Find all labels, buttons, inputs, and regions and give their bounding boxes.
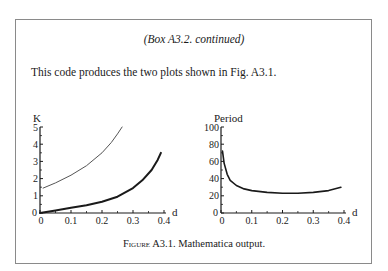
- figure-caption-text: Mathematica output.: [178, 238, 265, 249]
- chart2-x-tick-label: 0: [220, 215, 225, 226]
- chart1-x-tick-label: 0.3: [127, 215, 140, 226]
- chart1-y-axis-label: K: [33, 112, 41, 124]
- chart2-y-axis-label: Period: [214, 112, 243, 124]
- chart1-x-tick-label: 0: [39, 215, 44, 226]
- chart1-x-tick-label: 0.1: [65, 215, 78, 226]
- chart1-x-tick-label: 0.2: [96, 215, 109, 226]
- chart2-y-origin-label: 0: [213, 207, 218, 218]
- chart2-x-axis-label: d: [352, 206, 358, 218]
- chart2-y-tick-label: 60: [209, 156, 219, 167]
- charts-canvas: 12345000.10.20.30.4dK20406080100000.10.2…: [0, 0, 388, 271]
- chart2-y-tick-label: 80: [209, 139, 219, 150]
- figure-caption-label: Figure A3.1.: [123, 238, 176, 249]
- chart1-x-tick-label: 0.4: [158, 215, 171, 226]
- chart1-series-line-1: [43, 127, 122, 188]
- chart2-y-tick-label: 20: [209, 190, 219, 201]
- chart1-series-line-2: [40, 153, 161, 213]
- chart2-x-tick-label: 0.2: [276, 215, 289, 226]
- chart1-y-tick-label: 3: [33, 156, 38, 167]
- chart1-y-tick-label: 1: [33, 190, 38, 201]
- chart1-x-axis-label: d: [172, 206, 178, 218]
- chart1-y-tick-label: 2: [33, 173, 38, 184]
- chart2-y-tick-label: 40: [209, 173, 219, 184]
- chart2-x-tick-label: 0.3: [307, 215, 320, 226]
- chart2-x-tick-label: 0.1: [246, 215, 259, 226]
- chart1-y-origin-label: 0: [32, 207, 37, 218]
- chart2-x-tick-label: 0.4: [338, 215, 351, 226]
- chart1-y-tick-label: 4: [33, 139, 38, 150]
- chart2-series-line-1: [223, 151, 341, 193]
- figure-caption: Figure A3.1. Mathematica output.: [0, 238, 388, 249]
